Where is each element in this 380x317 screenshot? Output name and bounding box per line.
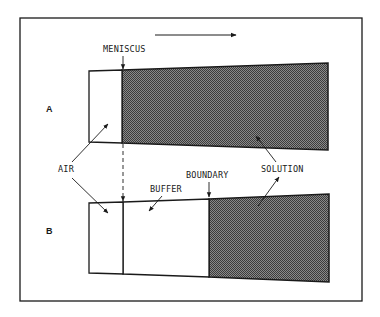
cell-b-buffer <box>123 199 209 277</box>
meniscus-label: MENISCUS <box>103 44 146 54</box>
cell-a <box>89 63 328 150</box>
buffer-label: BUFFER <box>150 184 183 194</box>
cell-b-air <box>89 202 123 274</box>
cell-b-solution <box>209 194 329 282</box>
panel-label-b: B <box>46 226 53 236</box>
solution-label: SOLUTION <box>261 164 304 174</box>
cell-a-solution <box>122 63 328 150</box>
cell-a-air <box>89 70 122 143</box>
boundary-label: BOUNDARY <box>186 170 229 180</box>
cell-b <box>89 194 329 282</box>
panel-label-a: A <box>46 104 53 114</box>
sedimentation-cell-diagram: A MENISCUS B AIR BUFFER BOUNDARY SOLUTIO… <box>0 0 380 317</box>
air-label: AIR <box>58 164 75 174</box>
